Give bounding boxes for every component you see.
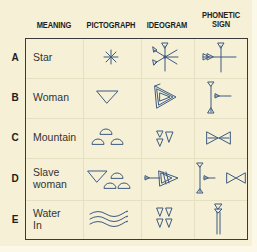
woman-phonetic-sign-icon (208, 82, 231, 113)
slave-woman-phonetic-sign-icon (197, 163, 245, 193)
star-ideogram-icon (153, 43, 178, 71)
three-hills-icon (92, 129, 123, 144)
mountain-phonetic-sign-icon (207, 132, 230, 144)
water-ideogram-icon (157, 208, 172, 227)
asterisk-star-icon (104, 50, 118, 64)
slave-woman-ideogram-icon (145, 171, 178, 186)
water-phonetic-sign-icon (215, 204, 222, 234)
mountain-ideogram-icon (157, 131, 173, 146)
triangle-pubic-icon (97, 91, 118, 103)
woman-plus-mountain-icon (88, 171, 130, 188)
glyph-layer (0, 0, 257, 252)
star-phonetic-sign-icon (203, 43, 236, 72)
woman-ideogram-icon (155, 84, 176, 108)
wavy-water-icon (90, 211, 128, 227)
